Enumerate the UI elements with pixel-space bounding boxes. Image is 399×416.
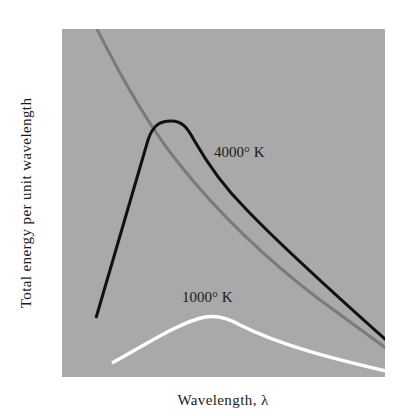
label-1000k: 1000° K bbox=[182, 289, 233, 306]
plot-area bbox=[62, 29, 385, 377]
label-4000k: 4000° K bbox=[214, 144, 265, 161]
x-axis-label: Wavelength, λ bbox=[177, 392, 268, 409]
y-axis-label: Total energy per unit wavelength bbox=[18, 98, 35, 309]
chart-plot bbox=[0, 0, 399, 416]
